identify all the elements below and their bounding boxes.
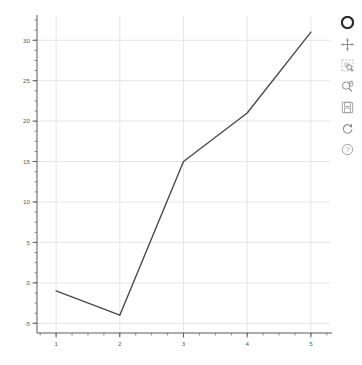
plot-toolbar[interactable]: ? xyxy=(335,12,359,159)
x-tick-label: 2 xyxy=(118,340,122,347)
y-axis-ticks: -5051015202530 xyxy=(23,20,37,327)
chart-svg[interactable]: 12345-5051015202530 xyxy=(0,0,362,365)
wheel-zoom-tool[interactable] xyxy=(336,77,358,96)
plot-root: 12345-5051015202530 xyxy=(0,0,362,365)
y-tick-label: 20 xyxy=(23,117,30,124)
x-tick-label: 1 xyxy=(54,340,58,347)
wheel-zoom-icon xyxy=(341,80,354,93)
reset-tool[interactable] xyxy=(336,119,358,138)
box-zoom-tool[interactable] xyxy=(336,56,358,75)
y-tick-label: 15 xyxy=(23,158,30,165)
reset-refresh-icon xyxy=(341,122,354,135)
x-tick-label: 4 xyxy=(245,340,249,347)
y-tick-label: 5 xyxy=(27,239,31,246)
x-tick-label: 3 xyxy=(182,340,186,347)
y-tick-label: 10 xyxy=(23,198,30,205)
y-tick-label: 30 xyxy=(23,37,30,44)
y-tick-label: 25 xyxy=(23,77,30,84)
plot-canvas[interactable]: 12345-5051015202530 xyxy=(0,0,362,365)
y-tick-label: 0 xyxy=(27,279,31,286)
x-tick-label: 5 xyxy=(309,340,313,347)
pan-tool[interactable] xyxy=(336,35,358,54)
svg-text:?: ? xyxy=(345,145,349,154)
box-zoom-icon xyxy=(341,59,354,72)
help-tool[interactable]: ? xyxy=(336,140,358,159)
save-disk-icon xyxy=(341,101,354,114)
move-cross-icon xyxy=(340,37,355,52)
bokeh-logo xyxy=(336,12,358,32)
x-axis-ticks: 12345 xyxy=(40,333,327,347)
save-tool[interactable] xyxy=(336,98,358,117)
y-tick-label: -5 xyxy=(24,320,30,327)
help-question-icon: ? xyxy=(341,143,354,156)
